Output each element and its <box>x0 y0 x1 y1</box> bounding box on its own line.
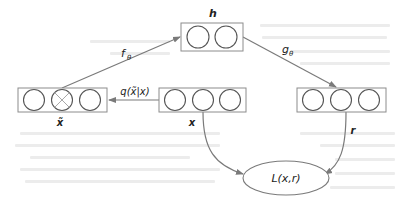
edge-g-decoder <box>243 37 336 87</box>
autoencoder-diagram: L(x,r) h x x̃ r q(x̃|x) f θ g θ <box>0 0 401 200</box>
loss-label: L(x,r) <box>271 172 300 185</box>
layer-box <box>181 23 243 51</box>
node-h <box>181 23 243 51</box>
label-x-tilde: x̃ <box>56 117 64 128</box>
node-r <box>297 88 386 112</box>
label-x: x <box>188 117 196 128</box>
label-g-theta: g θ <box>282 43 294 58</box>
edge-f-encoder <box>62 37 180 88</box>
edge-x-to-loss <box>203 112 243 174</box>
label-h: h <box>209 7 217 20</box>
layer-box <box>159 88 246 112</box>
label-q-corruption: q(x̃|x) <box>120 86 149 98</box>
svg-text:g: g <box>282 43 289 56</box>
label-f-theta: f θ <box>121 47 132 62</box>
node-loss: L(x,r) <box>243 161 329 195</box>
label-r: r <box>351 125 357 136</box>
svg-text:θ: θ <box>127 54 132 62</box>
layer-box <box>297 88 386 112</box>
svg-text:θ: θ <box>289 50 294 58</box>
edge-r-to-loss <box>325 112 346 174</box>
node-x <box>159 88 246 112</box>
node-x-tilde <box>18 88 107 112</box>
